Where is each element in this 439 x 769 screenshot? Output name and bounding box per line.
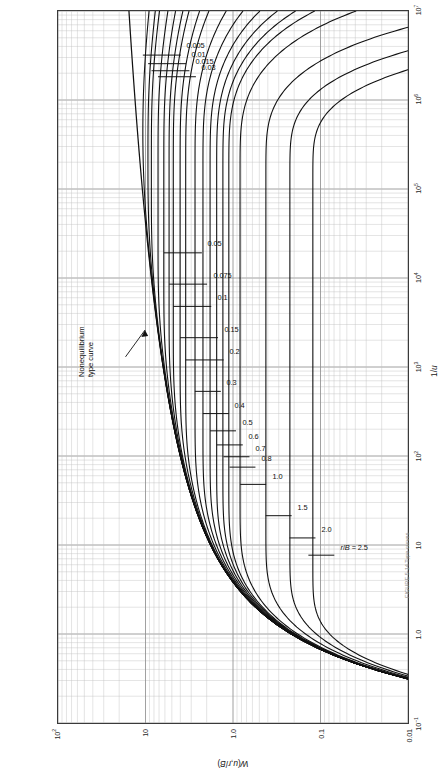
y-tick-label: 10 — [141, 729, 150, 766]
x-tick-label: 103 — [414, 362, 423, 373]
curve-label-rB-2.5: r/B = 2.5 — [341, 543, 368, 552]
curve-label-rB-1.5: 1.5 — [298, 503, 308, 512]
curve-label-rB-0.7: 0.7 — [256, 444, 266, 453]
type-curves-layer — [58, 11, 408, 723]
curve-label-rB-0.075: 0.075 — [213, 271, 231, 280]
curve-label-rB-2.0: 2.0 — [322, 525, 332, 534]
curve-label-rB-0.4: 0.4 — [235, 401, 245, 410]
x-tick-label: 10 — [414, 542, 423, 550]
curve-label-rB-0.6: 0.6 — [249, 432, 259, 441]
figure-caption: FIGURE 5-14 Type curves — [404, 448, 411, 598]
curve-label-rB-0.05: 0.05 — [208, 240, 222, 249]
x-tick-label: 1.0 — [414, 630, 423, 640]
curve-label-rB-0.2: 0.2 — [230, 347, 240, 356]
curve-label-rB-0.15: 0.15 — [224, 325, 238, 334]
x-tick-label: 105 — [414, 183, 423, 194]
y-axis-label: W(u,r/B) — [217, 759, 248, 769]
curve-label-rB-0.005: 0.005 — [187, 41, 205, 50]
curve-label-rB-0.03: 0.03 — [202, 63, 216, 72]
curve-label-rB-0.5: 0.5 — [242, 418, 252, 427]
x-tick-label: 107 — [414, 5, 423, 16]
x-tick-label: 106 — [414, 94, 423, 105]
nonequilibrium-annotation: Nonequilibrium type curve — [78, 326, 96, 377]
curve-label-rB-1.0: 1.0 — [272, 472, 282, 481]
curve-label-rB-0.1: 0.1 — [217, 293, 227, 302]
y-tick-label: 0.1 — [317, 729, 326, 766]
curve-label-rB-0.8: 0.8 — [262, 454, 272, 463]
curve-label-rB-0.3: 0.3 — [227, 378, 237, 387]
annotation-line-2: type curve — [87, 326, 96, 377]
chart-plot-area — [57, 10, 409, 724]
y-tick-label: 102 — [53, 729, 62, 766]
x-axis-label: 1/u — [429, 365, 439, 377]
x-tick-label: 102 — [414, 451, 423, 462]
x-tick-label: 104 — [414, 272, 423, 283]
y-tick-label: 0.01 — [405, 729, 414, 766]
x-tick-label: 10−1 — [414, 717, 423, 731]
